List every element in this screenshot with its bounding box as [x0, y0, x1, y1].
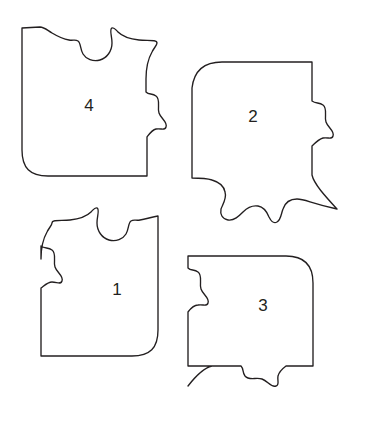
- piece-4-label: 4: [84, 96, 93, 115]
- puzzle-diagram-root: 4 2 1 3: [0, 0, 369, 421]
- puzzle-diagram-canvas: 4 2 1 3: [0, 0, 369, 421]
- piece-1-label: 1: [112, 280, 121, 299]
- piece-3-label: 3: [258, 296, 267, 315]
- piece-2-label: 2: [248, 107, 257, 126]
